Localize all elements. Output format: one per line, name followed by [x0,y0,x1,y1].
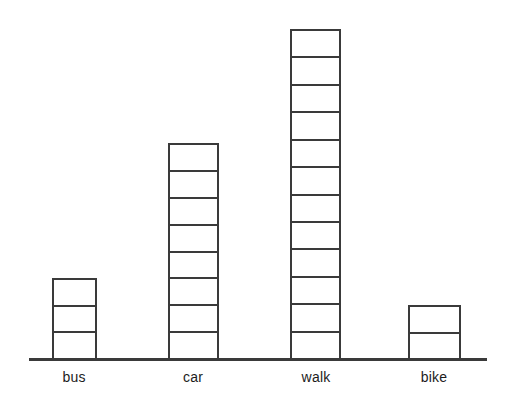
x-tick-label-bus: bus [24,369,124,385]
bar-unit-cell [170,253,217,280]
bar-unit-cell [54,333,95,358]
bar-chart: buscarwalkbike [0,0,505,405]
plot-area: buscarwalkbike [0,0,505,405]
bar-unit-cell [292,250,339,277]
bar-unit-cell [292,31,339,58]
bar-unit-cell [170,199,217,226]
bar-unit-cell [292,168,339,195]
bar-unit-cell [292,278,339,305]
bar-unit-cell [292,223,339,250]
bar-unit-cell [292,305,339,332]
bar-unit-cell [292,86,339,113]
bar-bike [408,305,461,358]
bar-unit-cell [292,196,339,223]
bar-unit-cell [292,58,339,85]
bar-unit-cell [410,307,459,334]
bar-car [168,143,219,358]
bar-unit-cell [170,226,217,253]
bar-unit-cell [170,333,217,358]
bar-unit-cell [292,141,339,168]
bar-unit-cell [54,307,95,334]
bar-unit-cell [410,334,459,359]
x-tick-label-car: car [143,369,243,385]
bar-unit-cell [54,280,95,307]
bar-unit-cell [170,306,217,333]
bar-unit-cell [292,113,339,140]
bar-unit-cell [170,145,217,172]
x-tick-label-bike: bike [384,369,484,385]
x-tick-label-walk: walk [266,369,366,385]
bar-unit-cell [292,333,339,358]
bar-walk [290,29,341,358]
bar-unit-cell [170,172,217,199]
x-axis-baseline [29,358,487,361]
bar-unit-cell [170,279,217,306]
bar-bus [52,278,97,358]
